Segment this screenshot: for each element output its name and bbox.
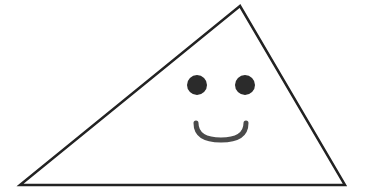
- smiling-triangle-illustration: [0, 0, 370, 196]
- right-eye: [235, 75, 255, 95]
- left-eye: [187, 75, 207, 95]
